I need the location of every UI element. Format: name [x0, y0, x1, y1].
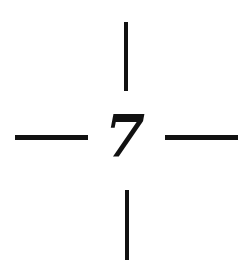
right-horizontal-line	[165, 135, 238, 140]
left-horizontal-line	[15, 135, 88, 140]
bottom-vertical-line	[125, 190, 129, 260]
center-numeral: 7	[103, 106, 147, 166]
top-vertical-line	[124, 22, 128, 91]
